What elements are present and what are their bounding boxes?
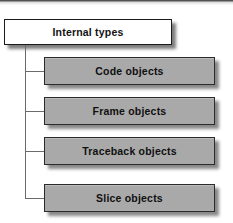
node-child-2[interactable]: Frame objects [44, 97, 215, 125]
top-border-fade [0, 2, 233, 5]
connector-stub-3 [25, 151, 45, 152]
node-child-2-label: Frame objects [93, 105, 167, 117]
node-internal-types-label: Internal types [52, 26, 123, 38]
connector-stub-2 [25, 111, 45, 112]
connector-stub-4 [25, 198, 45, 199]
diagram-canvas: Internal types Code objectsFrame objects… [0, 0, 233, 223]
node-child-4[interactable]: Slice objects [44, 184, 215, 212]
connector-trunk-vertical [25, 45, 26, 198]
node-child-1-label: Code objects [95, 65, 163, 77]
connector-stub-1 [25, 71, 45, 72]
node-child-1[interactable]: Code objects [44, 57, 215, 85]
node-child-3-label: Traceback objects [82, 145, 176, 157]
node-internal-types[interactable]: Internal types [4, 19, 172, 45]
node-child-3[interactable]: Traceback objects [44, 137, 215, 165]
node-child-4-label: Slice objects [96, 192, 163, 204]
